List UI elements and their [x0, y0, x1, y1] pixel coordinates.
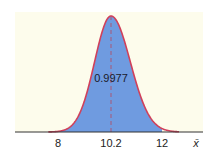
x-axis-label: x̄	[192, 137, 199, 149]
probability-label: 0.9977	[94, 72, 128, 84]
x-tick-8: 8	[55, 137, 61, 149]
x-tick-mean: 10.2	[100, 137, 121, 149]
x-tick-12: 12	[156, 137, 168, 149]
normal-distribution-chart: 0.9977 8 10.2 12 x̄	[0, 0, 210, 155]
